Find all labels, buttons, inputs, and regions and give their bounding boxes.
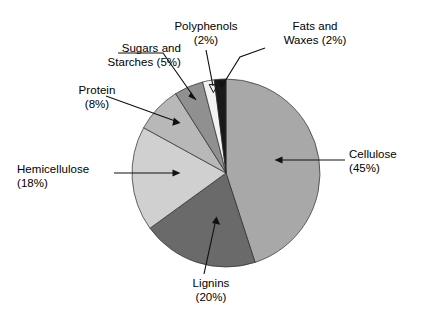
label-hemicellulose: Hemicellulose (18%) <box>17 163 121 190</box>
label-polyphenols: Polyphenols (2%) <box>163 20 249 47</box>
label-hemicellulose-line1: Hemicellulose <box>17 163 121 177</box>
label-protein: Protein (8%) <box>60 84 134 111</box>
label-cellulose-line2: (45%) <box>349 162 427 176</box>
label-fats-and-waxes: Fats and Waxes (2%) <box>265 20 365 47</box>
label-hemicellulose-line2: (18%) <box>17 177 121 191</box>
label-fats-and-waxes-line1: Fats and <box>265 20 365 34</box>
label-polyphenols-line1: Polyphenols <box>163 20 249 34</box>
label-cellulose: Cellulose (45%) <box>349 148 427 175</box>
label-lignins: Lignins (20%) <box>178 277 244 304</box>
label-protein-line2: (8%) <box>60 98 134 112</box>
label-sugars-and-starches-line2: Starches (5%) <box>57 56 181 70</box>
label-polyphenols-line2: (2%) <box>163 34 249 48</box>
label-fats-and-waxes-line2: Waxes (2%) <box>265 34 365 48</box>
label-lignins-line1: Lignins <box>178 277 244 291</box>
label-cellulose-line1: Cellulose <box>349 148 427 162</box>
pie-chart-figure: Sugars and Starches (5%) Polyphenols (2%… <box>0 0 429 325</box>
label-lignins-line2: (20%) <box>178 291 244 305</box>
label-protein-line1: Protein <box>60 84 134 98</box>
